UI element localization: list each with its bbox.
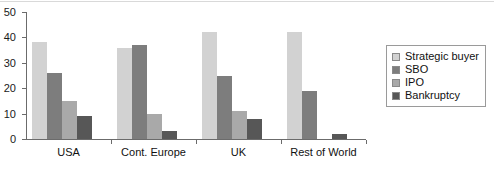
- category-label: Rest of World: [290, 145, 356, 159]
- bar: [332, 134, 347, 139]
- bar: [77, 116, 92, 139]
- bar: [32, 42, 47, 139]
- y-axis-tick: 0: [22, 139, 26, 140]
- legend-item[interactable]: Bankruptcy: [392, 89, 479, 102]
- category-label: UK: [231, 145, 246, 159]
- y-axis-tick-label: 20: [4, 83, 16, 94]
- legend-label: SBO: [405, 63, 428, 76]
- y-axis-tick-label: 50: [4, 7, 16, 18]
- bar: [132, 45, 147, 139]
- chart-legend: Strategic buyerSBOIPOBankruptcy: [386, 45, 486, 107]
- category-axis-labels: USACont. EuropeUKRest of World: [26, 145, 366, 163]
- category-label: Cont. Europe: [121, 145, 186, 159]
- y-axis-tick-label: 30: [4, 57, 16, 68]
- legend-swatch-icon: [392, 66, 400, 74]
- legend-item[interactable]: SBO: [392, 63, 479, 76]
- y-axis-tick: 40: [22, 37, 26, 38]
- y-axis-tick: 50: [22, 12, 26, 13]
- bar-group: [202, 12, 262, 139]
- legend-label: Bankruptcy: [405, 89, 460, 102]
- x-axis-tick: [111, 140, 112, 144]
- y-axis-tick: 30: [22, 63, 26, 64]
- bar-group: [287, 12, 347, 139]
- x-axis-tick: [366, 140, 367, 144]
- y-axis-tick-label: 10: [4, 108, 16, 119]
- legend-label: IPO: [405, 76, 424, 89]
- y-axis-tick-label: 0: [10, 134, 16, 145]
- legend-swatch-icon: [392, 92, 400, 100]
- y-axis-tick-label: 40: [4, 32, 16, 43]
- y-axis-tick: 20: [22, 88, 26, 89]
- y-axis-line: [26, 12, 27, 140]
- top-divider: [0, 1, 494, 2]
- bar: [62, 101, 77, 139]
- legend-swatch-icon: [392, 79, 400, 87]
- legend-item[interactable]: IPO: [392, 76, 479, 89]
- y-axis-tick: 10: [22, 114, 26, 115]
- bar: [47, 73, 62, 139]
- x-axis-tick: [281, 140, 282, 144]
- bar-group: [32, 12, 92, 139]
- bar: [247, 119, 262, 139]
- bar: [162, 131, 177, 139]
- bar: [287, 32, 302, 139]
- legend-swatch-icon: [392, 53, 400, 61]
- bar: [232, 111, 247, 139]
- bar: [202, 32, 217, 139]
- bar-group: [117, 12, 177, 139]
- x-axis-tick: [196, 140, 197, 144]
- bar: [302, 91, 317, 139]
- legend-item[interactable]: Strategic buyer: [392, 50, 479, 63]
- legend-label: Strategic buyer: [405, 50, 479, 63]
- bar: [117, 48, 132, 139]
- category-label: USA: [57, 145, 80, 159]
- bar: [217, 76, 232, 140]
- bar: [147, 114, 162, 139]
- plot-area: 01020304050: [26, 12, 366, 140]
- chart-screenshot: 01020304050 USACont. EuropeUKRest of Wor…: [0, 0, 494, 172]
